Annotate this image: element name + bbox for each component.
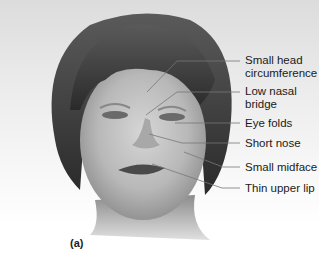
left-eye [102, 111, 128, 119]
right-eye [159, 113, 185, 121]
label-small-midface: Small midface [245, 161, 317, 174]
label-line: circumference [245, 67, 317, 80]
label-small-head: Small head circumference [245, 54, 317, 80]
face-illustration [0, 0, 319, 266]
panel-label: (a) [70, 237, 83, 249]
figure: Small head circumference Low nasal bridg… [0, 0, 319, 266]
label-short-nose: Short nose [245, 137, 301, 150]
label-low-nasal-bridge: Low nasal bridge [245, 85, 297, 111]
label-line: Low nasal [245, 85, 297, 98]
label-line: Small head [245, 54, 317, 67]
label-thin-upper-lip: Thin upper lip [245, 182, 315, 195]
label-eye-folds: Eye folds [245, 117, 292, 130]
label-line: bridge [245, 98, 297, 111]
